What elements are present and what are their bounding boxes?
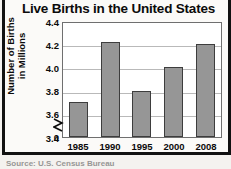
y-tick-4-4: 4.4 [46,18,59,27]
y-tick-4-0: 4.0 [46,64,59,73]
bar-2000 [164,67,183,137]
bar-slot-2000 [158,23,190,137]
source-note: Source: U.S. Census Bureau [6,158,156,169]
chart-title: Live Births in the United States [8,1,229,17]
chart-figure: Live Births in the United States Number … [0,0,231,169]
y-tick-4-2: 4.2 [46,41,59,50]
y-axis-label-line-1: Number of Births [6,6,17,106]
x-tick-1985: 1985 [62,141,94,153]
x-tick-2000: 2000 [158,141,190,153]
x-tick-1990: 1990 [94,141,126,153]
bar-slot-1990 [95,23,127,137]
y-axis-label: Number of Births in Millions [6,6,34,106]
bar-2008 [196,44,215,137]
bar-slot-1985 [63,23,95,137]
plot-area [62,22,222,138]
bar-slot-1995 [126,23,158,137]
y-tick-3-8: 3.8 [46,87,59,96]
y-axis-label-line-2: in Millions [17,6,28,106]
x-tick-2008: 2008 [190,141,222,153]
y-tick-0: 0 [54,133,59,142]
axis-break-icon [53,117,67,133]
x-axis-tick-labels: 19851990199520002008 [62,141,222,153]
bar-1995 [132,91,151,137]
bar-series [63,23,221,137]
x-tick-1995: 1995 [126,141,158,153]
bar-1985 [69,102,88,137]
bar-slot-2008 [189,23,221,137]
bar-1990 [101,42,120,137]
